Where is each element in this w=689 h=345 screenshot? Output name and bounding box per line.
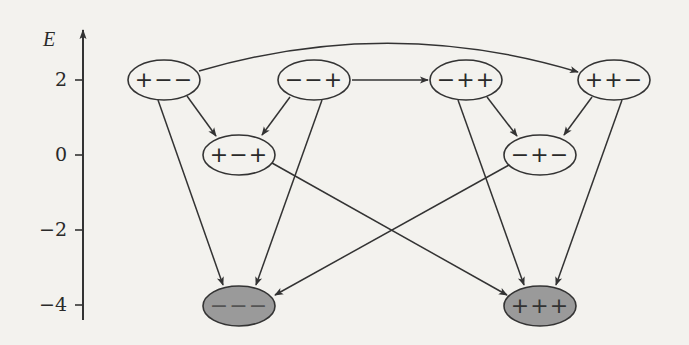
node-label-mmm: −−−: [203, 295, 275, 317]
node-label-pmm: +−−: [128, 69, 200, 91]
tick-label-minus-4: −4: [27, 293, 67, 315]
edge-pmp-ppp: [272, 163, 507, 295]
node-label-pmp: +−+: [203, 144, 275, 166]
state-nodes: [128, 60, 650, 326]
node-label-ppm: ++−: [578, 69, 650, 91]
energy-axis: [75, 30, 83, 320]
edge-mmp-pmp: [262, 97, 290, 135]
edge-pmm-pmp: [187, 96, 216, 136]
tick-label-0: 0: [27, 143, 67, 165]
edge-ppm-mpm: [564, 97, 592, 135]
edge-mmp-mmm: [256, 100, 322, 285]
edge-ppm-ppp: [556, 100, 622, 285]
node-label-ppp: +++: [504, 295, 576, 317]
tick-label-2: 2: [27, 68, 67, 90]
axis-label-energy: E: [43, 28, 55, 51]
edge-mpp-mpm: [487, 97, 517, 136]
node-label-mpm: −+−: [504, 144, 576, 166]
diagram-svg: [0, 0, 689, 345]
energy-diagram: E 2 0 −2 −4 +−− −−+ −++ ++− +−+ −+− −−− …: [0, 0, 689, 345]
edge-mpp-ppp: [458, 100, 524, 285]
edge-pmm-ppm: [199, 43, 578, 72]
tick-label-minus-2: −2: [27, 218, 67, 240]
edge-pmm-mmm: [158, 100, 223, 285]
node-label-mpp: −++: [430, 69, 502, 91]
node-label-mmp: −−+: [278, 69, 350, 91]
